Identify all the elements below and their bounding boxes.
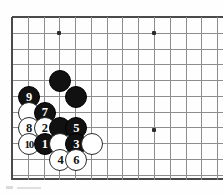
grid-line-vertical <box>186 17 187 180</box>
grid-line-vertical <box>138 17 139 180</box>
go-diagram-figure: 97825101346 <box>0 0 223 195</box>
star-point <box>57 31 61 35</box>
go-stone-black[interactable] <box>65 86 87 108</box>
grid-line-vertical <box>44 17 45 180</box>
grid-line-vertical <box>154 17 155 180</box>
caption-mark-1 <box>6 186 13 189</box>
grid-line-vertical <box>217 17 218 180</box>
grid-line-vertical <box>170 17 171 180</box>
star-point <box>152 31 156 35</box>
stone-move-number: 4 <box>57 154 63 167</box>
go-stone-white-6[interactable]: 6 <box>65 149 87 171</box>
stone-move-number: 10 <box>24 139 33 150</box>
grid-line-vertical <box>91 17 92 180</box>
caption-mark-2 <box>17 187 41 189</box>
star-point <box>152 128 156 132</box>
cut-off-caption <box>6 185 52 190</box>
stone-move-number: 1 <box>42 138 48 151</box>
stone-move-number: 6 <box>73 154 79 167</box>
go-board: 97825101346 <box>0 0 223 195</box>
grid-line-vertical <box>11 17 13 180</box>
grid-line-vertical <box>122 17 123 180</box>
grid-line-vertical <box>107 17 108 180</box>
grid-line-vertical <box>201 17 202 180</box>
